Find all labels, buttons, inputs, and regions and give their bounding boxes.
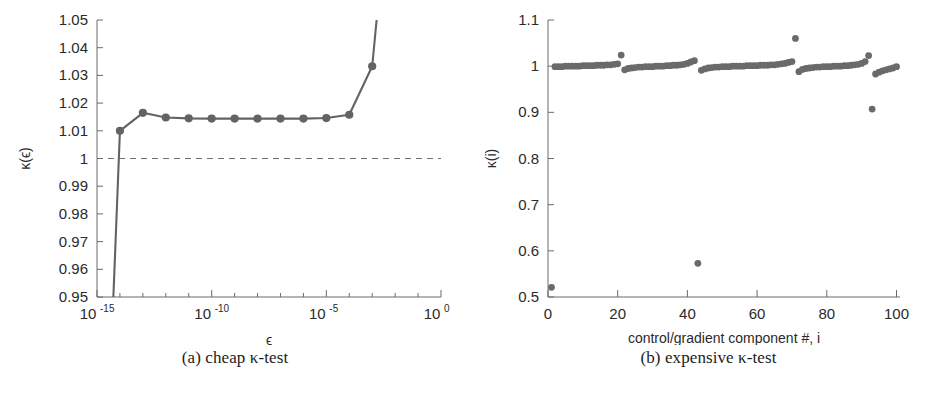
y-tick-label: 0.99: [59, 177, 88, 194]
y-tick-label: 1: [80, 150, 88, 167]
x-tick-label: 100: [884, 305, 909, 322]
plot-area-background: [97, 20, 441, 297]
y-tick-label: 0.6: [518, 242, 539, 259]
x-tick-label: 60: [749, 305, 766, 322]
x-tick-label-base: 10: [309, 305, 326, 322]
data-point-marker: [116, 127, 124, 135]
y-tick-label: 0.5: [518, 288, 539, 305]
data-point-marker: [869, 106, 876, 113]
data-point-marker: [862, 58, 869, 65]
y-tick-label: 1.02: [59, 94, 88, 111]
data-point-marker: [614, 60, 621, 67]
x-tick-label-exponent: 0: [444, 303, 450, 314]
data-point-marker: [893, 63, 900, 70]
x-tick-label-exponent: -15: [100, 303, 115, 314]
plot-area-background: [548, 20, 900, 297]
x-tick-label: 100: [424, 303, 450, 322]
x-tick-label-base: 10: [80, 305, 97, 322]
y-axis-title: κ(i): [483, 149, 499, 168]
x-axis-title: ϵ: [266, 332, 272, 345]
x-tick-label-exponent: -5: [329, 303, 338, 314]
x-tick-label: 0: [544, 305, 552, 322]
y-tick-label: 0.95: [59, 288, 88, 305]
data-point-marker: [162, 113, 170, 121]
data-point-marker: [548, 284, 555, 291]
y-tick-label: 1: [531, 57, 539, 74]
data-point-marker: [185, 114, 193, 122]
data-point-marker: [792, 35, 799, 42]
y-tick-label: 0.8: [518, 150, 539, 167]
data-point-marker: [253, 115, 261, 123]
x-tick-label-exponent: -10: [215, 303, 230, 314]
data-point-marker: [139, 109, 147, 117]
data-point-marker: [299, 115, 307, 123]
y-tick-label: 1.04: [59, 39, 88, 56]
y-tick-label: 0.98: [59, 205, 88, 222]
data-point-marker: [208, 115, 216, 123]
x-tick-label: 10-10: [194, 303, 229, 322]
data-point-marker: [865, 52, 872, 59]
x-tick-label-base: 10: [424, 305, 441, 322]
y-tick-label: 1.1: [518, 11, 539, 28]
y-tick-label: 0.9: [518, 103, 539, 120]
x-axis-title: control/gradient component #, i: [628, 330, 820, 345]
x-tick-label: 20: [609, 305, 626, 322]
data-point-marker: [691, 57, 698, 64]
y-axis-title: κ(ϵ): [17, 147, 33, 170]
data-point-marker: [368, 62, 376, 70]
data-point-marker: [789, 58, 796, 65]
x-tick-label-base: 10: [194, 305, 211, 322]
panel-expensive-kappa-test: 0.50.60.70.80.911.1020406080100control/g…: [470, 0, 947, 400]
y-tick-label: 1.01: [59, 122, 88, 139]
x-tick-label: 10-15: [80, 303, 115, 322]
y-tick-label: 0.97: [59, 233, 88, 250]
data-point-marker: [276, 115, 284, 123]
data-point-marker: [345, 111, 353, 119]
panel-a-caption: (a) cheap κ-test: [0, 348, 470, 368]
figure-root: 0.950.960.970.980.9911.011.021.031.041.0…: [0, 0, 947, 400]
data-point-marker: [618, 52, 625, 59]
y-tick-label: 0.96: [59, 260, 88, 277]
panel-b-caption: (b) expensive κ-test: [470, 348, 947, 368]
y-tick-label: 1.03: [59, 66, 88, 83]
data-point-marker: [694, 260, 701, 267]
cheap-kappa-test-plot: 0.950.960.970.980.9911.011.021.031.041.0…: [0, 0, 470, 345]
y-tick-label: 0.7: [518, 196, 539, 213]
data-point-marker: [322, 114, 330, 122]
data-point-marker: [231, 115, 239, 123]
x-tick-label: 10-5: [309, 303, 339, 322]
x-tick-label: 80: [818, 305, 835, 322]
x-tick-label: 40: [679, 305, 696, 322]
expensive-kappa-test-plot: 0.50.60.70.80.911.1020406080100control/g…: [470, 0, 947, 345]
y-tick-label: 1.05: [59, 11, 88, 28]
panel-cheap-kappa-test: 0.950.960.970.980.9911.011.021.031.041.0…: [0, 0, 470, 400]
